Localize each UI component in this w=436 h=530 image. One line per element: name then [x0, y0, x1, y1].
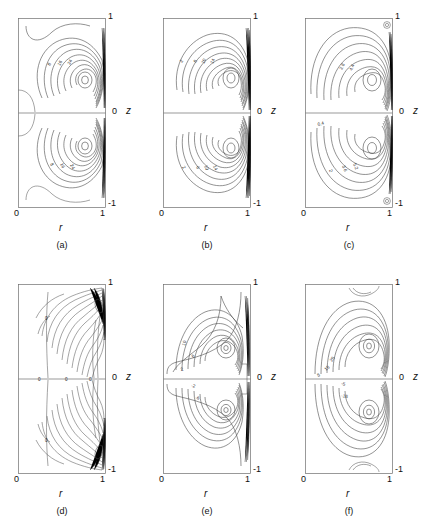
figure-caption-strip	[0, 520, 436, 530]
x-tick-max: 1	[245, 209, 250, 218]
y-tick-top: 1	[253, 12, 258, 21]
panel-d: 0 0 0 0 0 1 0 z -1 0 1 r (d)	[18, 284, 106, 474]
x-tick-min: 0	[159, 475, 164, 484]
y-tick-bottom: -1	[253, 199, 261, 208]
contour-label: 0	[65, 377, 68, 382]
contour-label: -15	[341, 393, 349, 399]
panel-f: 25 15 5 -5 -15 1 0 z -1 0 1 r (f)	[305, 284, 393, 474]
contour-label: 16	[59, 162, 66, 169]
panel-caption-a: (a)	[42, 240, 82, 250]
contour-label: 0.4	[317, 120, 325, 127]
panel-b: 2 6 10 14 2 6 10 14 1 0 z -1 0 1 r (b)	[163, 18, 251, 208]
x-axis-label: r	[346, 489, 349, 499]
panel-a: 8 16 24 8 16 24 1 0 z -1 0 1 r (a)	[18, 18, 106, 208]
contour-label: 0	[45, 438, 48, 443]
x-tick-min: 0	[14, 475, 19, 484]
contour-label: 15	[323, 364, 330, 371]
contour-figure: 8 16 24 8 16 24 1 0 z -1 0 1 r (a)	[0, 0, 436, 530]
x-axis-label: r	[346, 223, 349, 233]
x-tick-max: 1	[100, 209, 105, 218]
y-tick-top: 1	[253, 278, 258, 287]
contour-label: -2	[191, 383, 196, 389]
x-tick-min: 0	[301, 209, 306, 218]
y-axis-label: z	[126, 372, 131, 382]
contour-label: 4.4	[348, 63, 355, 71]
contour-label: 10	[200, 57, 207, 64]
contour-label: -6	[195, 395, 201, 401]
x-axis-label: r	[59, 223, 62, 233]
x-tick-min: 0	[301, 475, 306, 484]
y-axis-label: z	[271, 106, 276, 116]
panel-e: 10 6 2 -2 -6 1 0 z -1 0 1 r (e)	[163, 284, 251, 474]
x-tick-max: 1	[387, 209, 392, 218]
panel-caption-d: (d)	[42, 506, 82, 516]
contour-label: 14	[209, 57, 216, 64]
y-tick-bottom: -1	[253, 465, 261, 474]
contour-label: 8	[46, 61, 52, 66]
contour-label: 24	[66, 58, 73, 65]
y-tick-bottom: -1	[108, 465, 116, 474]
y-tick-mid: 0	[112, 373, 117, 382]
y-tick-mid: 0	[112, 107, 117, 116]
contour-label: 5	[316, 372, 321, 378]
contour-label: 2	[328, 169, 334, 173]
contour-label: -5	[341, 381, 346, 387]
x-tick-max: 1	[100, 475, 105, 484]
contour-label: 0	[89, 377, 92, 382]
contour-label: 5.2	[352, 162, 359, 170]
contour-label: 2.8	[338, 62, 345, 70]
panel-c: 2.8 4.4 0.4 2 3.6 5.2 1 0 z -1 0 1 r (c)	[305, 18, 393, 208]
y-axis-label: z	[413, 372, 418, 382]
contour-label: 0	[38, 377, 41, 382]
x-axis-label: r	[59, 489, 62, 499]
x-tick-min: 0	[159, 209, 164, 218]
y-tick-mid: 0	[257, 373, 262, 382]
y-tick-bottom: -1	[395, 465, 403, 474]
y-axis-label: z	[413, 106, 418, 116]
y-tick-mid: 0	[257, 107, 262, 116]
contour-label: 2	[180, 366, 184, 372]
panel-caption-c: (c)	[329, 240, 369, 250]
contour-label: 0	[45, 316, 48, 321]
x-axis-label: r	[204, 489, 207, 499]
y-tick-bottom: -1	[108, 199, 116, 208]
contour-label: 24	[69, 163, 76, 170]
y-tick-top: 1	[395, 12, 400, 21]
contour-label: 10	[181, 340, 187, 347]
x-axis-label: r	[204, 223, 207, 233]
y-tick-top: 1	[395, 278, 400, 287]
y-tick-mid: 0	[399, 373, 404, 382]
y-tick-mid: 0	[399, 107, 404, 116]
panel-caption-b: (b)	[187, 240, 227, 250]
y-axis-label: z	[126, 106, 131, 116]
y-tick-top: 1	[108, 278, 113, 287]
contour-label: 3.6	[341, 165, 348, 173]
contour-label: 8	[49, 162, 55, 167]
panel-caption-e: (e)	[187, 506, 227, 516]
y-tick-top: 1	[108, 12, 113, 21]
y-tick-bottom: -1	[395, 199, 403, 208]
x-tick-max: 1	[245, 475, 250, 484]
x-tick-max: 1	[387, 475, 392, 484]
panel-caption-f: (f)	[329, 506, 369, 516]
y-axis-label: z	[271, 372, 276, 382]
x-tick-min: 0	[14, 209, 19, 218]
contour-label: 10	[203, 164, 210, 171]
